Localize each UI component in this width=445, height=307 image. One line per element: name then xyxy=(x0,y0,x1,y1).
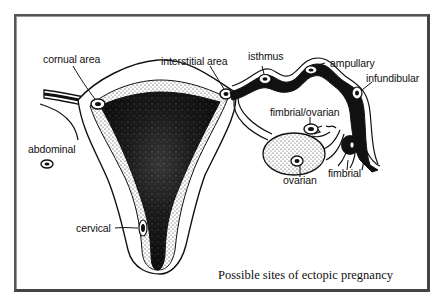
label-cervical: cervical xyxy=(76,222,111,234)
label-interstitial-area: interstitial area xyxy=(161,55,228,67)
label-ovarian: ovarian xyxy=(283,174,317,186)
label-infundibular: infundibular xyxy=(366,72,419,84)
ovary xyxy=(263,133,325,175)
label-isthmus: isthmus xyxy=(248,50,283,62)
label-ampullary: ampullary xyxy=(330,57,375,69)
label-fimbrial: fimbrial xyxy=(328,167,361,179)
figure-caption: Possible sites of ectopic pregnancy xyxy=(218,268,393,283)
label-abdominal: abdominal xyxy=(28,143,76,155)
label-fimbrial-ovarian: fimbrial/ovarian xyxy=(270,106,340,118)
label-cornual-area: cornual area xyxy=(43,53,100,65)
